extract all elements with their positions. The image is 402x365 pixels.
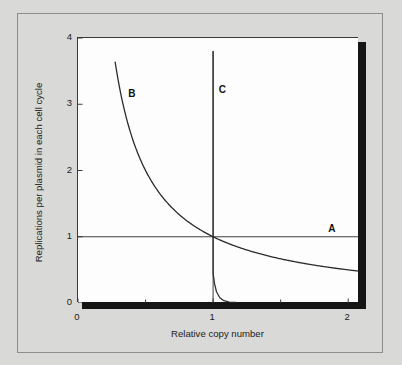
series-curve-B	[115, 62, 359, 271]
y-tick-label: 1	[58, 231, 72, 241]
chart-svg	[78, 38, 359, 303]
y-tick-label: 4	[58, 32, 72, 42]
y-tick-label: 0	[58, 297, 72, 307]
y-tick-label: 3	[58, 98, 72, 108]
figure-root: 01234012 ABC Relative copy number Replic…	[0, 0, 402, 365]
plot-area	[77, 37, 358, 302]
curve-label-b: B	[128, 89, 135, 99]
x-tick-label: 0	[69, 312, 85, 322]
y-axis-title: Replications per plasmid in each cell cy…	[33, 53, 44, 293]
curve-label-a: A	[328, 224, 335, 234]
curve-label-c: C	[219, 85, 226, 95]
x-tick-label: 1	[204, 312, 220, 322]
y-tick-label: 2	[58, 165, 72, 175]
plot-shadow-right	[358, 42, 366, 308]
plot-shadow-bottom	[82, 302, 366, 309]
x-tick-label: 2	[339, 312, 355, 322]
x-axis-title: Relative copy number	[77, 328, 358, 339]
